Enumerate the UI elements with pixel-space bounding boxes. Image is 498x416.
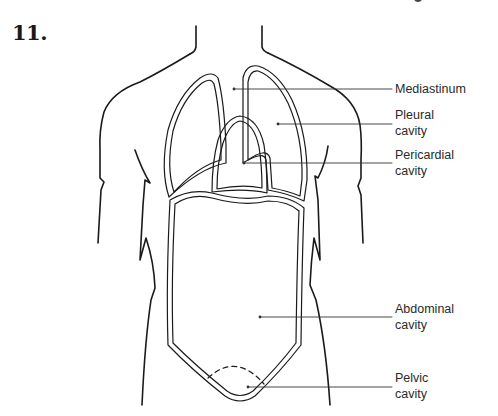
label-mediastinum: Mediastinum: [395, 81, 466, 97]
pointer-dot-pelvic: [247, 386, 250, 389]
label-pleural-cavity: Pleural cavity: [395, 107, 434, 139]
right-pleural-cavity: [243, 66, 307, 201]
label-pericardial-cavity: Pericardial cavity: [395, 147, 454, 179]
left-torso-outline: [135, 150, 155, 405]
right-shoulder-outline: [268, 53, 363, 243]
label-text: Mediastinum: [395, 81, 466, 97]
neck-right-outline: [262, 26, 268, 53]
neck-left-outline: [190, 26, 196, 54]
pointer-dot-pleural: [277, 123, 280, 126]
label-text: cavity: [395, 317, 454, 333]
label-pelvic-cavity: Pelvic cavity: [395, 370, 428, 402]
label-text: cavity: [395, 163, 454, 179]
left-shoulder-outline: [98, 54, 190, 243]
right-torso-outline: [310, 146, 330, 405]
pointer-dot-mediastinum: [233, 88, 236, 91]
abdominal-cavity-outline: [167, 192, 304, 401]
label-abdominal-cavity: Abdominal cavity: [395, 301, 454, 333]
body-cavities-diagram: [0, 0, 498, 416]
label-text: Pelvic: [395, 370, 428, 386]
pointer-dot-pericardial: [243, 162, 246, 165]
label-text: Pericardial: [395, 147, 454, 163]
label-text: Abdominal: [395, 301, 454, 317]
pointer-dot-abdominal: [259, 316, 262, 319]
label-text: cavity: [395, 123, 434, 139]
pelvic-cavity-boundary: [208, 366, 264, 384]
label-text: cavity: [395, 386, 428, 402]
label-text: Pleural: [395, 107, 434, 123]
